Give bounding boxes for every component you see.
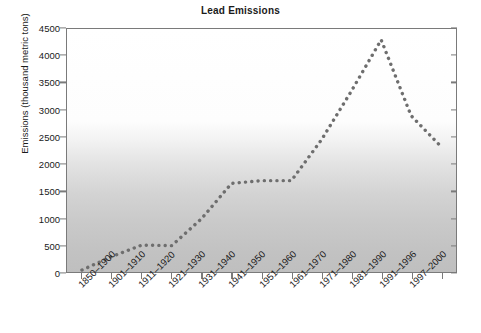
y-tick-mark-right [451,136,457,137]
y-tick-mark-right [451,272,457,273]
y-tick-mark-right [451,109,457,110]
y-tick-mark-right [451,27,457,28]
y-tick-mark-right [451,82,457,83]
y-tick-mark-right [451,164,457,165]
y-tick-mark [60,55,66,56]
y-tick-mark [60,82,66,83]
y-tick-mark-right [451,218,457,219]
y-tick-mark [60,109,66,110]
x-tick-mark [442,273,443,279]
y-tick-mark [60,272,66,273]
y-tick-mark [60,27,66,28]
y-tick-mark [60,218,66,219]
y-tick-mark-right [451,191,457,192]
y-tick-mark [60,245,66,246]
y-tick-mark-right [451,55,457,56]
y-tick-mark [60,164,66,165]
y-tick-mark-right [451,245,457,246]
y-tick-mark [60,191,66,192]
y-tick-mark [60,136,66,137]
chart-figure: Lead Emissions Emissions (thousand metri… [0,0,481,333]
